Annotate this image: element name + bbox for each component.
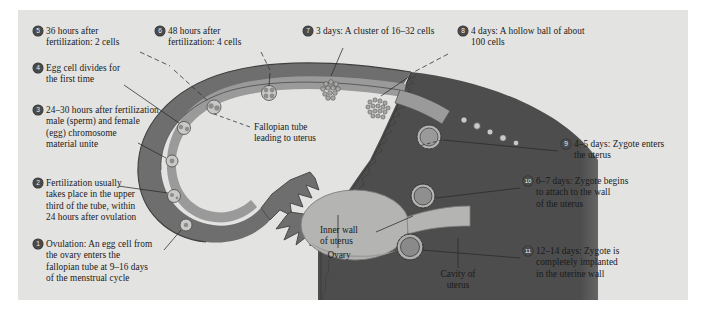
step-text-3-line-1: 24–30 hours after fertilization — [46, 105, 159, 115]
step-text-10-line-1: 6–7 days: Zygote begins — [536, 176, 628, 186]
fallopian-tube-line-2: leading to uterus — [254, 133, 364, 144]
step-text-1-line-1: Ovulation: An egg cell from — [46, 239, 152, 249]
step-marker-10: 10 — [523, 176, 533, 186]
step-text-7-line-1: 3 days: A cluster of 16–32 cells — [316, 26, 434, 36]
step-text-2-line-3: third of the tube, within — [46, 201, 163, 212]
step-marker-5: 5 — [33, 26, 43, 36]
ovary-line-1: Ovary — [312, 250, 366, 261]
step-text-3-line-3: (egg) chromosome — [46, 128, 193, 139]
step-text-4-line-1: Egg cell divides for — [46, 63, 120, 73]
step-marker-11: 11 — [523, 246, 533, 256]
step-marker-2: 2 — [33, 178, 43, 188]
step-text-1-line-2: the ovary enters the — [46, 250, 183, 261]
anatomy-label-fallopian-tube: Fallopian tube leading to uterus — [254, 122, 364, 145]
step-marker-1: 1 — [33, 239, 43, 249]
step-label-2: 2Fertilization usually takes place in th… — [33, 178, 163, 224]
inner-wall-line-1: Inner wall — [320, 225, 380, 236]
anatomy-label-inner-wall-of-uterus: Inner wall of uterus — [320, 225, 380, 248]
anatomy-label-ovary: Ovary — [312, 250, 366, 261]
step-text-5-line-2: fertilization: 2 cells — [46, 37, 153, 48]
step-label-9: 94–5 days: Zygote enters the uterus — [561, 139, 689, 162]
step-text-2-line-1: Fertilization usually — [46, 178, 122, 188]
step-text-3-line-4: material unite — [46, 139, 193, 150]
step-marker-7: 7 — [303, 26, 313, 36]
step-label-8: 84 days: A hollow ball of about 100 cell… — [458, 26, 636, 49]
step-marker-4: 4 — [33, 63, 43, 73]
step-text-6-line-2: fertilization: 4 cells — [168, 37, 277, 48]
step-text-8-line-1: 4 days: A hollow ball of about — [471, 26, 585, 36]
step-text-4-line-2: the first time — [46, 74, 159, 85]
step-text-5-line-1: 36 hours after — [46, 26, 98, 36]
step-text-3-line-2: male (sperm) and female — [46, 116, 193, 127]
step-marker-6: 6 — [155, 26, 165, 36]
step-text-2-line-2: takes place in the upper — [46, 189, 163, 200]
step-marker-9: 9 — [561, 139, 571, 149]
fallopian-tube-line-1: Fallopian tube — [254, 122, 364, 133]
step-label-7: 73 days: A cluster of 16–32 cells — [303, 26, 483, 37]
step-label-1: 1Ovulation: An egg cell from the ovary e… — [33, 239, 183, 285]
step-text-10-line-3: of the uterus — [536, 199, 663, 210]
anatomy-label-cavity-of-uterus: Cavity of uterus — [427, 269, 489, 292]
step-label-5: 536 hours after fertilization: 2 cells — [33, 26, 153, 49]
step-text-1-line-3: fallopian tube at 9–16 days — [46, 262, 183, 273]
step-text-9-line-2: the uterus — [574, 150, 689, 161]
step-text-8-line-2: 100 cells — [471, 37, 636, 48]
step-text-1-line-4: of the menstrual cycle — [46, 273, 183, 284]
step-text-9-line-1: 4–5 days: Zygote enters — [574, 139, 664, 149]
step-label-10: 106–7 days: Zygote begins to attach to t… — [523, 176, 663, 210]
figure-page: 536 hours after fertilization: 2 cells 6… — [0, 0, 703, 333]
diagram-panel: 536 hours after fertilization: 2 cells 6… — [18, 10, 688, 300]
step-text-2-line-4: 24 hours after ovulation — [46, 212, 163, 223]
step-text-11-line-2: completely implanted — [536, 257, 663, 268]
step-text-10-line-2: to attach to the wall — [536, 187, 663, 198]
cavity-line-1: Cavity of — [427, 269, 489, 280]
step-text-11-line-3: in the uterine wall — [536, 269, 663, 280]
step-marker-3: 3 — [33, 105, 43, 115]
step-label-11: 1112–14 days: Zygote is completely impla… — [523, 246, 663, 280]
inner-wall-line-2: of uterus — [320, 236, 380, 247]
step-text-6-line-1: 48 hours after — [168, 26, 220, 36]
step-marker-8: 8 — [458, 26, 468, 36]
step-text-11-line-1: 12–14 days: Zygote is — [536, 246, 619, 256]
step-label-6: 648 hours after fertilization: 4 cells — [155, 26, 277, 49]
step-label-4: 4Egg cell divides for the first time — [33, 63, 159, 86]
cavity-line-2: uterus — [427, 280, 489, 291]
step-label-3: 324–30 hours after fertilization male (s… — [33, 105, 193, 151]
